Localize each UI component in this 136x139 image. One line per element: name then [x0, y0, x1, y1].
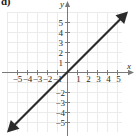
- x-tick-label: 5: [116, 74, 121, 84]
- x-tick-label: −3: [33, 74, 43, 84]
- x-axis-label: x: [126, 61, 131, 71]
- y-axis-label: y: [59, 0, 64, 9]
- y-tick-label: −3: [55, 98, 65, 108]
- y-tick-label: 4: [59, 28, 64, 38]
- x-tick-label: −5: [13, 74, 23, 84]
- x-tick-label: 1: [76, 74, 81, 84]
- y-tick-label: −2: [55, 88, 65, 98]
- axes: [2, 4, 130, 136]
- y-tick-label: −4: [55, 108, 65, 118]
- y-tick-label: 3: [59, 38, 64, 48]
- x-tick-label: 3: [96, 74, 101, 84]
- y-tick-label: 1: [59, 58, 64, 68]
- x-tick-label: 4: [106, 74, 111, 84]
- x-tick-label: −2: [43, 74, 53, 84]
- y-axis-arrow-up: [65, 1, 70, 7]
- y-tick-label: −5: [55, 118, 65, 128]
- y-tick-label: 5: [59, 18, 64, 28]
- coordinate-plane: −5 −4 −3 −2 −1 1 2 3 4 5 5 4 3 2 1 −2 −3…: [0, 0, 136, 139]
- graph-figure: d): [0, 0, 136, 139]
- x-tick-label: −4: [23, 74, 33, 84]
- y-tick-label: 2: [59, 48, 64, 58]
- x-tick-label: 2: [86, 74, 91, 84]
